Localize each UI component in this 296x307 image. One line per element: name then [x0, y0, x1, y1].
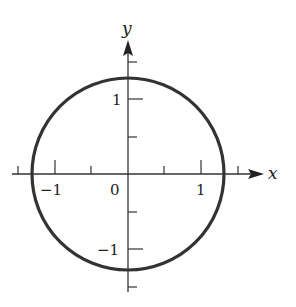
origin-label: 0: [110, 181, 120, 199]
y-tick-label-1: 1: [112, 91, 122, 109]
y-axis-label: y: [121, 18, 132, 38]
x-tick-label-neg1: −1: [40, 181, 62, 199]
circle-diagram: y x 0 −1 1 1 −1: [0, 0, 296, 307]
x-axis-label: x: [268, 163, 278, 183]
x-tick-label-1: 1: [196, 181, 206, 199]
y-tick-label-neg1: −1: [97, 241, 119, 259]
